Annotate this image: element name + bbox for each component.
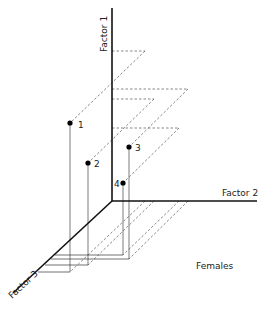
point-3 [126,144,131,149]
point-1 [67,120,72,125]
point-2 [85,160,90,165]
factor1-label: Factor 1 [99,16,109,52]
point-2-label: 2 [94,159,100,169]
data-points: 1 2 3 4 [67,120,140,189]
point-4-label: 4 [114,179,120,189]
point-3-label: 3 [135,143,141,153]
factor2-label: Factor 2 [222,188,258,198]
factor-3d-diagram: Factor 1 Factor 2 Factor 3 1 2 3 4 Femal… [0,0,275,310]
diagram-title: Females [196,261,234,271]
point-4 [120,180,125,185]
point-1-label: 1 [78,120,84,130]
factor3-label: Factor 3 [7,269,40,301]
drop-lines [70,123,129,272]
